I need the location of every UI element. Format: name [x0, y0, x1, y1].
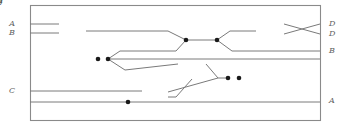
- junction-dots-group: [96, 38, 242, 105]
- junction-bottom-a: [126, 100, 131, 105]
- output-port-label-D-1: D: [328, 19, 336, 28]
- wire-h-mid-out-down: [206, 64, 228, 78]
- gate-box-h-right-label: h: [0, 0, 3, 5]
- junction-merge-center-1: [184, 38, 189, 43]
- junction-merge-low-2: [237, 76, 242, 81]
- junction-fork-left-2: [106, 57, 111, 62]
- wire-g-out-to-merge: [168, 78, 218, 92]
- junction-merge-low-1: [226, 76, 231, 81]
- circuit-diagram-root: f h g h A: [0, 0, 349, 128]
- wire-fork-to-lower: [108, 59, 178, 70]
- input-port-labels-group: A B C: [8, 19, 15, 95]
- wire-f-out-to-merge: [86, 31, 186, 40]
- wire-fork-to-upper: [108, 40, 186, 59]
- wire-h-mid-down-to-g: [168, 79, 192, 97]
- circuit-diagram-canvas: f h g h A: [0, 0, 349, 128]
- diagram-frame: [31, 6, 321, 121]
- gate-box-h-right[interactable]: h: [0, 0, 3, 5]
- output-port-label-A: A: [328, 96, 335, 105]
- input-port-label-A: A: [8, 19, 15, 28]
- output-port-label-B: B: [328, 46, 335, 55]
- wires-group: [30, 24, 320, 102]
- input-port-label-B: B: [8, 28, 15, 37]
- input-port-label-C: C: [9, 86, 15, 95]
- gate-boxes-group: f h g h: [0, 0, 3, 5]
- output-port-labels-group: D D B A: [328, 19, 336, 105]
- wire-merge-to-h-right: [217, 31, 256, 40]
- junction-merge-center-2: [215, 38, 220, 43]
- junction-fork-left-1: [96, 57, 101, 62]
- wire-merge-to-outB: [217, 40, 320, 51]
- output-port-label-D-2: D: [328, 29, 336, 38]
